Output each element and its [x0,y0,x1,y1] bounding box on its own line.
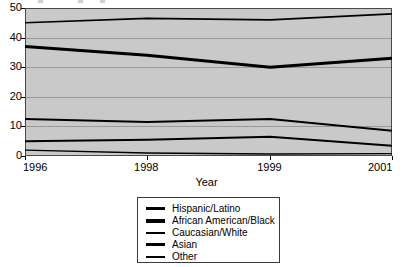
x-axis-tick-label: 1999 [257,161,281,173]
x-axis-tick-label: 2001 [368,161,392,173]
legend-item: Other [146,251,279,262]
legend-item: Caucasian/White [146,227,279,238]
series-lines [25,8,392,156]
series-line [25,150,392,154]
legend-label: Other [172,252,197,262]
x-axis-tick-mark [25,156,26,160]
x-axis-tick-mark [270,156,271,160]
y-axis-tick-label: 10 [0,120,22,131]
legend-label: Asian [172,240,197,250]
x-axis-tick-label: 1998 [134,161,158,173]
legend-label: Hispanic/Latino [172,204,240,214]
legend-swatch [146,207,165,210]
line-chart: 01020304050 1996199819992001 Year Hispan… [0,0,413,267]
legend-label: African American/Black [172,216,275,226]
y-axis-tick-label: 30 [0,61,22,72]
series-line [25,46,392,67]
y-axis-tick-label: 20 [0,91,22,102]
legend-item: Asian [146,239,279,250]
legend-swatch [146,219,165,223]
series-line [25,119,392,131]
series-line [25,14,392,23]
legend: Hispanic/LatinoAfrican American/BlackCau… [137,197,280,263]
y-axis-tick-label: 0 [0,150,22,161]
x-axis-tick-mark [392,156,393,160]
legend-swatch [146,243,165,246]
legend-swatch [146,256,165,258]
x-axis-title: Year [0,176,413,188]
legend-swatch [146,232,165,234]
y-axis-tick-label: 40 [0,32,22,43]
series-line [25,137,392,146]
legend-label: Caucasian/White [172,228,248,238]
y-axis-tick-label: 50 [0,2,22,13]
clipped-title-remnant [0,0,413,4]
x-axis-tick-mark [147,156,148,160]
legend-item: Hispanic/Latino [146,203,279,214]
x-axis-tick-label: 1996 [23,161,47,173]
legend-item: African American/Black [146,215,279,226]
